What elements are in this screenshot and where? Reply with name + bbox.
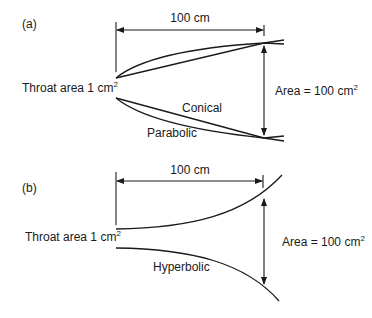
hyperbolic-curve-upper — [116, 175, 282, 229]
panel-b: (b) 100 cm Throat area 1 cm2 Area = 100 … — [22, 163, 365, 301]
conical-label: Conical — [182, 101, 222, 115]
length-label: 100 cm — [170, 163, 209, 177]
throat-area-label: Throat area 1 cm2 — [22, 80, 118, 95]
throat-area-label: Throat area 1 cm2 — [25, 229, 121, 244]
hyperbolic-label: Hyperbolic — [153, 260, 210, 274]
panel-a-label: (a) — [22, 17, 37, 31]
panel-a: (a) 100 cm Throat area 1 cm2 Area = 100 … — [22, 11, 358, 141]
mouth-area-label: Area = 100 cm2 — [275, 83, 358, 98]
mouth-area-label: Area = 100 cm2 — [282, 234, 365, 249]
parabolic-label: Parabolic — [147, 126, 197, 140]
horn-profiles-diagram: (a) 100 cm Throat area 1 cm2 Area = 100 … — [0, 0, 372, 318]
panel-b-label: (b) — [22, 181, 37, 195]
conical-line-upper — [116, 43, 284, 78]
hyperbolic-curve-lower — [116, 248, 279, 301]
length-label: 100 cm — [170, 11, 209, 25]
